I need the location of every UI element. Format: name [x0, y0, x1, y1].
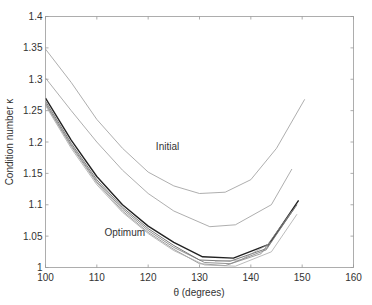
series-line-1 — [46, 78, 292, 227]
y-tick-label: 1.35 — [23, 42, 43, 53]
x-tick-label: 150 — [294, 272, 311, 283]
series-line-5 — [46, 104, 292, 265]
x-tick-label: 130 — [191, 272, 208, 283]
series-line-0 — [46, 49, 305, 193]
x-axis-ticks: 100110120130140150160 — [37, 17, 362, 283]
x-tick-label: 160 — [345, 272, 362, 283]
y-tick-label: 1.4 — [29, 11, 43, 22]
series-line-6 — [46, 106, 298, 267]
axes-frame — [46, 17, 354, 268]
y-tick-label: 1.15 — [23, 168, 43, 179]
y-tick-label: 1.3 — [29, 74, 43, 85]
y-tick-label: 1.2 — [29, 137, 43, 148]
series-lines — [46, 49, 305, 266]
x-tick-label: 140 — [242, 272, 259, 283]
y-tick-label: 1.25 — [23, 105, 43, 116]
x-tick-label: 120 — [140, 272, 157, 283]
y-tick-label: 1.1 — [29, 199, 43, 210]
series-line-2 — [46, 98, 299, 258]
x-tick-label: 110 — [89, 272, 105, 283]
y-axis-label: Condition number κ — [4, 98, 15, 186]
y-tick-label: 1 — [37, 262, 43, 273]
condition-number-chart: 100110120130140150160 11.051.11.151.21.2… — [0, 0, 372, 305]
x-axis-label: θ (degrees) — [173, 287, 224, 298]
annotation-initial: Initial — [156, 141, 179, 152]
y-tick-label: 1.05 — [23, 231, 43, 242]
annotation-optimum: Optimum — [105, 227, 146, 238]
x-tick-label: 100 — [37, 272, 54, 283]
